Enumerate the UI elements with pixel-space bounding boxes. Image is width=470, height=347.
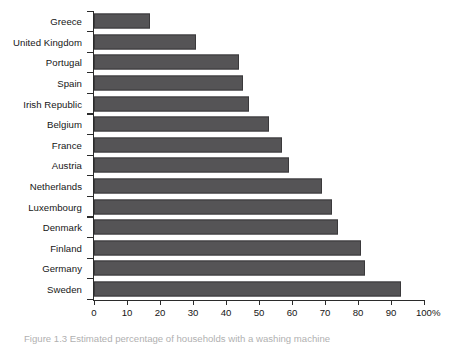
bar-row: Luxembourg: [0, 196, 470, 217]
y-axis-tick: [87, 52, 93, 53]
bar-row: Belgium: [0, 114, 470, 135]
y-axis-tick: [87, 155, 93, 156]
y-axis-tick: [87, 93, 93, 94]
x-axis-tick-label: 20: [155, 307, 166, 319]
y-axis-tick: [87, 113, 93, 114]
bar: [94, 137, 282, 152]
x-axis-tick: [94, 300, 95, 305]
bar-row: Denmark: [0, 217, 470, 238]
y-axis-tick: [87, 258, 93, 259]
x-axis-tick: [127, 300, 128, 305]
bar: [94, 240, 361, 255]
bar: [94, 55, 239, 70]
category-label: Germany: [42, 263, 82, 274]
category-label: Spain: [57, 78, 82, 89]
y-axis-tick: [87, 237, 93, 238]
x-axis-tick: [292, 300, 293, 305]
x-axis-tick-label: 50: [254, 307, 265, 319]
bar-row: United Kingdom: [0, 32, 470, 53]
x-axis-tick-label: 30: [188, 307, 199, 319]
category-label: Portugal: [46, 57, 82, 68]
category-label: Luxembourg: [28, 201, 82, 212]
bar: [94, 199, 332, 214]
bar-row: Portugal: [0, 52, 470, 73]
x-axis-tick-label: 40: [221, 307, 232, 319]
x-axis-tick-label: 10: [122, 307, 133, 319]
category-label: Belgium: [47, 119, 82, 130]
y-axis-tick: [87, 31, 93, 32]
y-axis-tick: [87, 216, 93, 217]
bar: [94, 261, 365, 276]
bar-row: Sweden: [0, 279, 470, 300]
x-axis-tick: [358, 300, 359, 305]
bar-row: Spain: [0, 73, 470, 94]
bar: [94, 14, 150, 29]
category-label: United Kingdom: [13, 36, 82, 47]
y-axis-tick: [87, 196, 93, 197]
bar: [94, 158, 289, 173]
x-axis-tick: [325, 300, 326, 305]
x-axis-tick: [193, 300, 194, 305]
x-axis-ticks: 0102030405060708090100%: [0, 300, 470, 324]
x-axis-tick-label: 60: [287, 307, 298, 319]
x-axis-tick-label: 80: [353, 307, 364, 319]
category-label: Denmark: [43, 222, 82, 233]
bar: [94, 34, 196, 49]
bar-row: Greece: [0, 11, 470, 32]
bar-row: Irish Republic: [0, 93, 470, 114]
x-axis-tick: [226, 300, 227, 305]
y-axis-tick: [87, 72, 93, 73]
y-axis-tick: [87, 175, 93, 176]
x-axis-tick-label: 100%: [416, 307, 441, 319]
bar-rows: GreeceUnited KingdomPortugalSpainIrish R…: [0, 11, 470, 299]
bar-row: Netherlands: [0, 176, 470, 197]
figure-caption: Figure 1.3 Estimated percentage of house…: [24, 334, 454, 347]
bar-row: Germany: [0, 258, 470, 279]
x-axis-tick: [160, 300, 161, 305]
x-axis-tick-label: 90: [386, 307, 397, 319]
x-axis-tick: [424, 300, 425, 305]
category-label: Austria: [52, 160, 82, 171]
category-label: Irish Republic: [23, 98, 82, 109]
x-axis-tick-label: 0: [91, 307, 96, 319]
figure-bar-chart: GreeceUnited KingdomPortugalSpainIrish R…: [0, 0, 470, 347]
bar: [94, 96, 249, 111]
category-label: Greece: [50, 16, 82, 27]
figure-caption-text: Figure 1.3 Estimated percentage of house…: [24, 334, 330, 345]
bar-row: Austria: [0, 155, 470, 176]
plot-area: GreeceUnited KingdomPortugalSpainIrish R…: [0, 0, 470, 312]
x-axis-tick: [259, 300, 260, 305]
category-label: Sweden: [47, 284, 82, 295]
bar-row: Finland: [0, 238, 470, 259]
y-axis-tick: [87, 278, 93, 279]
bar-row: France: [0, 135, 470, 156]
bar: [94, 179, 322, 194]
x-axis-tick: [391, 300, 392, 305]
x-axis-tick-label: 70: [320, 307, 331, 319]
bar: [94, 282, 401, 297]
bar: [94, 117, 269, 132]
category-label: Finland: [50, 242, 82, 253]
bar: [94, 76, 243, 91]
category-label: France: [52, 139, 82, 150]
category-label: Netherlands: [30, 181, 82, 192]
bar: [94, 220, 338, 235]
y-axis-tick: [87, 11, 93, 12]
y-axis-tick: [87, 134, 93, 135]
